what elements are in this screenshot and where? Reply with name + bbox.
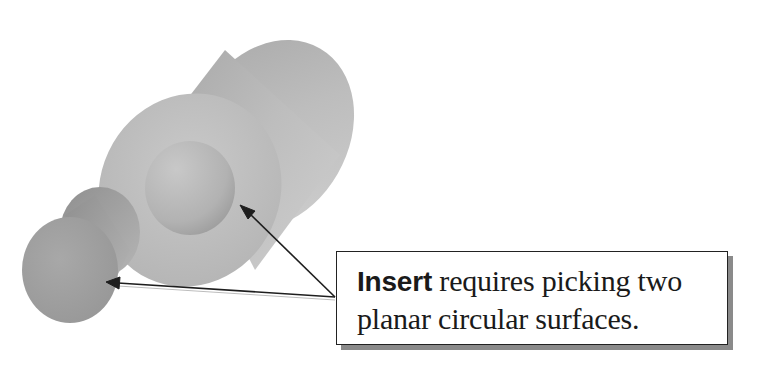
callout-text: Insert requires picking two planar circu… <box>357 262 682 337</box>
callout-line1: requires picking two <box>432 264 682 297</box>
bore-face <box>145 141 235 235</box>
small-cylinder-end-face <box>22 217 118 323</box>
callout-box: Insert requires picking two planar circu… <box>336 251 728 345</box>
arrow-to-small-face <box>118 283 335 297</box>
callout-line2: planar circular surfaces. <box>357 302 639 335</box>
small-cylinder <box>22 187 140 323</box>
callout-keyword: Insert <box>357 266 432 297</box>
